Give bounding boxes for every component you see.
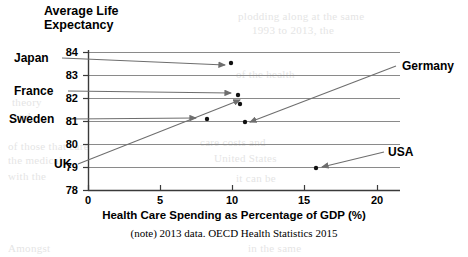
x-tick-label-5: 5 — [148, 194, 172, 206]
data-points — [205, 61, 318, 170]
x-tick-marks — [89, 185, 378, 190]
x-axis-title: Health Care Spending as Percentage of GD… — [0, 209, 468, 221]
data-point-sweden — [205, 117, 209, 121]
data-point-usa — [314, 166, 318, 170]
series-label-japan: Japan — [14, 51, 49, 65]
chart-note: (note) 2013 data. OECD Health Statistics… — [0, 227, 468, 239]
y-tick-label-78: 78 — [58, 184, 78, 196]
series-label-france: France — [14, 84, 53, 98]
y-tick-label-81: 81 — [58, 115, 78, 127]
gridlines — [88, 53, 400, 168]
data-point-germany — [243, 120, 247, 124]
y-tick-label-84: 84 — [58, 46, 78, 58]
chart-figure: plodding along at the same1993 to 2013, … — [0, 0, 468, 257]
chart-title: Average Life Expectancy — [44, 4, 119, 32]
leader-uk — [78, 100, 240, 164]
series-label-germany: Germany — [402, 59, 454, 73]
data-point-japan — [229, 61, 233, 65]
y-tick-label-80: 80 — [58, 138, 78, 150]
leader-usa — [322, 152, 384, 167]
y-tick-label-83: 83 — [58, 69, 78, 81]
leader-france — [68, 91, 231, 93]
data-point-france — [236, 93, 240, 97]
x-tick-label-0: 0 — [76, 194, 100, 206]
data-point-uk — [238, 102, 242, 106]
x-tick-label-20: 20 — [365, 194, 389, 206]
y-tick-label-82: 82 — [58, 92, 78, 104]
leader-lines — [62, 58, 396, 167]
x-tick-label-15: 15 — [292, 194, 316, 206]
y-tick-marks — [83, 53, 88, 191]
leader-germany — [250, 66, 396, 122]
series-label-usa: USA — [388, 145, 413, 159]
series-label-uk: UK — [54, 157, 71, 171]
leader-japan — [62, 58, 225, 65]
x-tick-label-10: 10 — [220, 194, 244, 206]
series-label-sweden: Sweden — [9, 112, 54, 126]
